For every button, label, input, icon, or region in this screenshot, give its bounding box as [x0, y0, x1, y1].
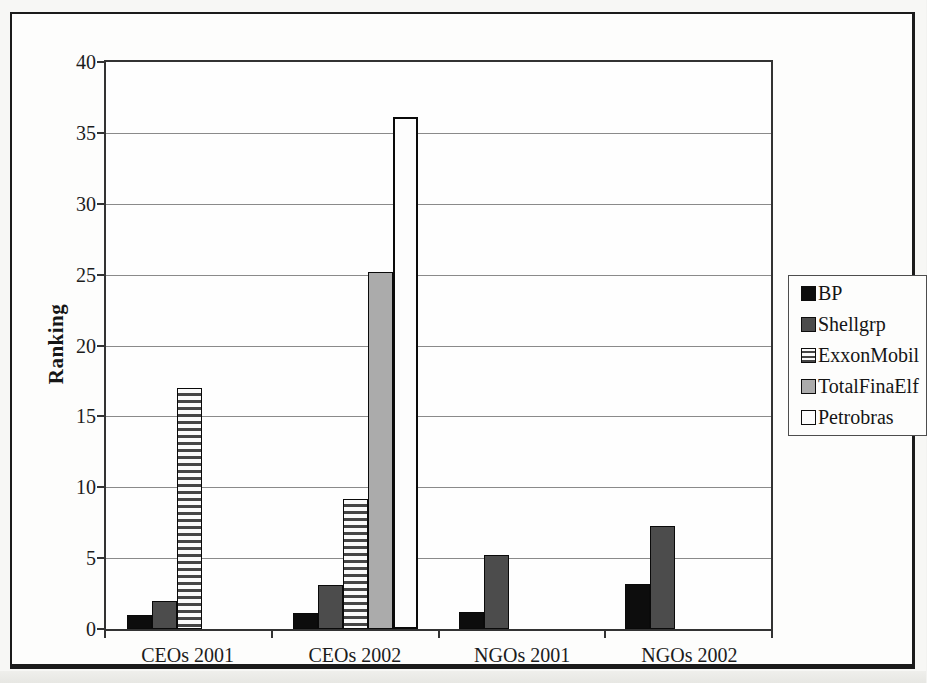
legend-item-exxonmobil: ExxonMobil	[801, 345, 926, 366]
y-axis-tick	[97, 486, 104, 488]
bar-bp-2	[293, 613, 318, 629]
category-label: CEOs 2001	[118, 644, 258, 667]
gridline	[106, 275, 771, 276]
gridline	[106, 204, 771, 205]
y-axis-tick	[97, 274, 104, 276]
legend-swatch-icon	[801, 348, 816, 363]
y-axis-tick	[97, 628, 104, 630]
x-axis-tick	[104, 631, 106, 638]
bar-shellgrp-1	[152, 601, 177, 629]
gridline	[106, 346, 771, 347]
bar-shellgrp-3	[484, 555, 509, 629]
legend-swatch-icon	[801, 410, 816, 425]
plot-area	[104, 60, 773, 631]
x-axis-tick	[771, 631, 773, 638]
legend-item-shellgrp: Shellgrp	[801, 314, 926, 335]
y-tick-label: 35	[36, 123, 96, 143]
y-tick-label: 10	[36, 477, 96, 497]
x-axis-tick	[604, 631, 606, 638]
y-tick-label: 40	[36, 52, 96, 72]
legend-label: Petrobras	[818, 407, 894, 428]
category-label: CEOs 2002	[285, 644, 425, 667]
legend-item-totalfinaelf: TotalFinaElf	[801, 376, 926, 397]
y-tick-label: 25	[36, 265, 96, 285]
y-axis-tick	[97, 61, 104, 63]
legend-swatch-icon	[801, 317, 816, 332]
scan-edge-artifact	[0, 671, 926, 683]
y-tick-label: 30	[36, 194, 96, 214]
legend-label: Shellgrp	[818, 314, 886, 335]
category-label: NGOs 2002	[619, 644, 759, 667]
bar-exxonmobil-2	[343, 499, 368, 629]
figure-frame: Ranking 0510152025303540 CEOs 2001CEOs 2…	[10, 12, 915, 669]
y-axis-tick	[97, 557, 104, 559]
y-axis-tick	[97, 203, 104, 205]
legend: BPShellgrpExxonMobilTotalFinaElfPetrobra…	[788, 275, 927, 436]
y-tick-label: 0	[36, 619, 96, 639]
gridline	[106, 416, 771, 417]
bar-bp-1	[127, 615, 152, 629]
x-axis-tick	[271, 631, 273, 638]
legend-item-petrobras: Petrobras	[801, 407, 926, 428]
legend-swatch-icon	[801, 379, 816, 394]
y-axis-tick	[97, 415, 104, 417]
legend-label: TotalFinaElf	[818, 376, 919, 397]
gridline	[106, 133, 771, 134]
category-label: NGOs 2001	[452, 644, 592, 667]
y-tick-label: 15	[36, 406, 96, 426]
bar-bp-4	[625, 584, 650, 629]
gridline	[106, 487, 771, 488]
bar-petrobras-2	[393, 117, 418, 629]
legend-swatch-icon	[801, 286, 816, 301]
bar-exxonmobil-1	[177, 388, 202, 629]
bar-shellgrp-4	[650, 526, 675, 629]
y-tick-label: 5	[36, 548, 96, 568]
legend-label: ExxonMobil	[818, 345, 919, 366]
y-tick-label: 20	[36, 336, 96, 356]
x-axis-tick	[438, 631, 440, 638]
y-axis-tick	[97, 345, 104, 347]
bar-shellgrp-2	[318, 585, 343, 629]
legend-label: BP	[818, 283, 842, 304]
legend-item-bp: BP	[801, 283, 926, 304]
y-axis-tick	[97, 132, 104, 134]
bar-totalfinaelf-2	[368, 272, 393, 629]
bar-bp-3	[459, 612, 484, 629]
